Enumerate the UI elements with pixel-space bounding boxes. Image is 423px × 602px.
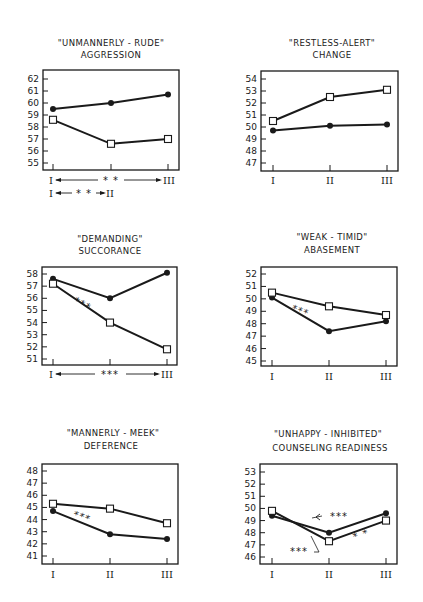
data-point-square [383,517,390,524]
panel-subtitle: SUCCORANCE [78,246,141,256]
y-tick-label: 58 [28,122,40,132]
data-point-square [383,312,390,319]
x-tick-label: III [161,569,173,580]
y-tick-label: 53 [245,467,256,477]
data-point-square [164,346,171,353]
x-tick-label: III [380,569,392,580]
y-tick-label: 61 [28,86,39,96]
significance-label: *** [72,295,93,313]
significance-label: *** [290,546,308,557]
panel-subtitle: AGGRESSION [81,50,141,60]
x-axis-labels: I II III [51,569,173,580]
y-tick-label: 42 [27,539,38,549]
panel-subtitle: DEFERENCE [84,441,139,451]
y-tick-label: 51 [246,110,257,120]
y-tick-label: 58 [27,269,39,279]
y-tick-label: 50 [246,122,258,132]
y-tick-label: 52 [245,479,256,489]
significance-annotation: I *** III [49,369,173,380]
panel-succorance: "DEMANDING" SUCCORANCE 5152535455565758 … [27,234,177,380]
x-tick-label: I [270,371,274,382]
plot-frame [260,464,397,564]
data-point-square [164,520,171,527]
significance-label: *** [72,509,93,525]
y-tick-label: 44 [27,515,39,525]
plot-area: 5152535455565758 [27,267,177,365]
data-point-circle [327,123,333,129]
x-tick-label: I [49,188,53,199]
data-point-circle [165,92,171,98]
y-tick-label: 41 [27,551,38,561]
data-point-circle [326,530,332,536]
data-point-square [270,118,277,125]
plot-area: 4142434445464748 [27,464,178,564]
y-tick-label: 50 [246,294,258,304]
x-tick-label: II [106,569,114,580]
x-tick-label: II [325,569,333,580]
y-tick-label: 45 [246,356,257,366]
plot-frame [43,70,179,170]
plot-area: 4748495051525354 [246,71,398,171]
x-axis-labels: I II III [270,371,392,382]
x-tick-label: II [326,175,334,186]
x-tick-label: III [380,371,392,382]
y-tick-label: 43 [27,527,38,537]
y-tick-label: 49 [246,306,258,316]
data-point-circle [164,270,170,276]
data-point-circle [326,328,332,334]
data-point-square [107,505,114,512]
y-tick-label: 55 [27,305,38,315]
plot-area: 5556575859606162 [28,70,179,170]
x-tick-label: III [381,175,393,186]
significance-label: *** [101,369,119,380]
x-tick-label: I [271,175,275,186]
y-tick-label: 52 [27,342,38,352]
x-tick-label: I [49,175,53,186]
y-tick-label: 55 [28,158,39,168]
y-tick-label: 51 [246,281,257,291]
panel-abasement: "WEAK - TIMID" ABASEMENT 454647484950515… [246,232,397,382]
y-tick-label: 60 [28,98,40,108]
y-tick-label: 54 [246,74,258,84]
data-point-square [269,507,276,514]
plot-area: 4647484950515253 [245,464,397,564]
data-point-square [107,319,114,326]
x-tick-label: I [49,369,53,380]
y-tick-label: 46 [246,344,258,354]
data-point-square [50,116,57,123]
panel-title: "MANNERLY - MEEK" [67,428,160,438]
data-point-square [108,140,115,147]
panel-change: "RESTLESS-ALERT" CHANGE 4748495051525354… [246,38,398,186]
y-tick-label: 50 [245,503,257,513]
significance-label: * * [76,188,92,199]
x-tick-label: III [161,369,173,380]
panel-subtitle: CHANGE [313,50,352,60]
y-tick-label: 57 [27,281,38,291]
panel-title: "UNHAPPY - INHIBITED" [274,429,382,439]
significance-label: * * [103,175,119,186]
data-point-square [50,500,57,507]
y-tick-label: 56 [28,146,40,156]
y-tick-label: 53 [27,330,38,340]
panel-counseling-readiness: "UNHAPPY - INHIBITED" COUNSELING READINE… [245,429,397,580]
y-tick-label: 45 [27,502,38,512]
data-point-square [50,280,57,287]
x-tick-label: III [163,175,175,186]
plot-frame [261,71,398,171]
y-tick-label: 47 [27,478,38,488]
data-point-circle [50,508,56,514]
y-tick-label: 48 [246,319,258,329]
panel-title: "RESTLESS-ALERT" [289,38,375,48]
y-tick-label: 51 [27,354,38,364]
x-axis-labels: I II III [271,175,393,186]
y-tick-label: 48 [27,466,39,476]
panel-title: "UNMANNERLY - RUDE" [58,38,164,48]
y-tick-label: 57 [28,134,39,144]
significance-label: *** [290,302,311,319]
y-tick-label: 48 [245,528,257,538]
x-tick-label: I [270,569,274,580]
data-point-circle [383,510,389,516]
data-point-square [269,289,276,296]
data-point-square [165,136,172,143]
y-tick-label: 62 [28,74,39,84]
